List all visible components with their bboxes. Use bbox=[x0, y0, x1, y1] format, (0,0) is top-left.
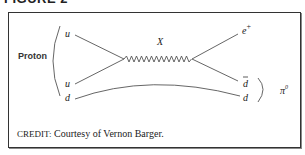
quark-line-u-bottom bbox=[75, 59, 124, 84]
down-label: d bbox=[243, 92, 249, 103]
credit-text: Courtesy of Vernon Barger. bbox=[52, 128, 164, 139]
positron-line bbox=[192, 34, 238, 59]
antidown-line bbox=[192, 59, 238, 81]
proton-label: Proton bbox=[18, 51, 47, 61]
quark-line-u-top bbox=[75, 35, 124, 59]
meson-bracket bbox=[258, 78, 263, 102]
credit-label: CREDIT: bbox=[17, 129, 52, 139]
antidown-label: d bbox=[243, 78, 249, 89]
spectator-quark-line bbox=[75, 85, 240, 99]
pion-label: π0 bbox=[280, 84, 288, 96]
positron-label: e+ bbox=[242, 22, 251, 36]
x-boson-wavy-line bbox=[124, 56, 192, 62]
quark-u-bottom: u bbox=[65, 78, 70, 89]
x-boson-label: X bbox=[156, 36, 164, 47]
figure-credit: CREDIT: Courtesy of Vernon Barger. bbox=[17, 128, 164, 139]
proton-bracket bbox=[53, 26, 60, 96]
quark-d-incoming: d bbox=[65, 92, 71, 103]
quark-u-top: u bbox=[65, 28, 70, 39]
